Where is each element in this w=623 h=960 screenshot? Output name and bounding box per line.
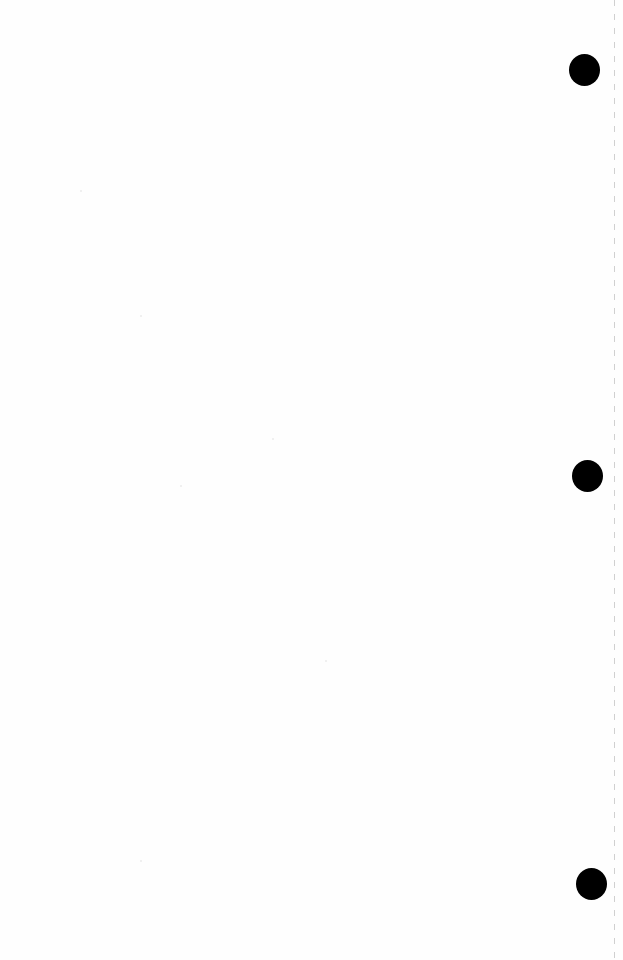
punch-hole-middle [572, 460, 603, 492]
scan-speck [80, 190, 82, 192]
scan-speck [325, 660, 327, 662]
page-edge-line [614, 0, 615, 960]
blank-page [0, 0, 623, 960]
scan-speck [272, 438, 274, 440]
scan-speck [180, 485, 182, 487]
scan-speck [140, 315, 142, 317]
punch-hole-top [569, 54, 600, 86]
punch-hole-bottom [576, 868, 607, 900]
scan-speck [140, 860, 142, 862]
page-text [0, 0, 1, 1]
